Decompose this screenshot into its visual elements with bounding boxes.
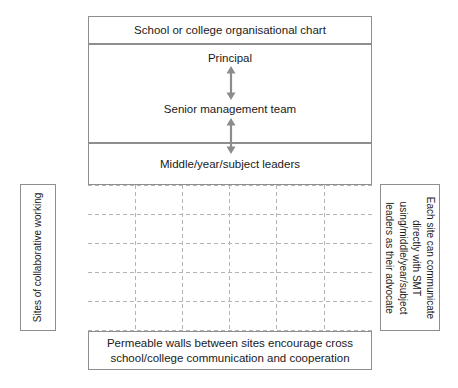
right-panel-text-wrap: Each site can communicate directly with …	[380, 184, 440, 331]
left-panel-text-wrap: Sites of collaborative working	[20, 184, 56, 331]
double-arrow-icon-principal-smt	[225, 66, 237, 100]
right-panel-line-3: using/middle/year/subject	[397, 196, 411, 318]
level-label-principal: Principal	[88, 51, 372, 66]
left-panel-label: Sites of collaborative working	[32, 193, 45, 323]
right-panel-line-4: leaders as their advocate	[383, 196, 397, 318]
caption-label: Permeable walls between sites encourage …	[88, 331, 372, 370]
caption-line-2: school/college communication and coopera…	[110, 351, 349, 366]
right-panel-label: Each site can communicate directly with …	[383, 196, 437, 318]
right-panel-line-2: directly with SMT	[410, 196, 424, 318]
double-arrow-icon-smt-leaders	[225, 118, 237, 154]
level-label-senior-management-team: Senior management team	[88, 102, 372, 117]
sites-grid	[88, 185, 372, 331]
level-label-middle-year-subject-leaders: Middle/year/subject leaders	[88, 157, 372, 172]
organisational-chart-diagram: School or college organisational chart P…	[0, 0, 458, 388]
right-panel-line-1: Each site can communicate	[424, 196, 438, 318]
caption-line-1: Permeable walls between sites encourage …	[107, 336, 353, 351]
page-title: School or college organisational chart	[88, 16, 372, 44]
